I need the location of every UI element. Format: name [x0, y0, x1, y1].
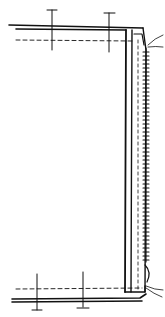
thread-end-icon — [146, 286, 163, 297]
pin-icon — [104, 13, 115, 52]
thread-end-icon — [148, 35, 163, 47]
pin-icon — [77, 272, 89, 308]
top-fabric-layers — [9, 25, 143, 41]
pin-icon — [32, 274, 42, 310]
zipper-teeth — [143, 48, 149, 262]
sewing-diagram — [0, 0, 165, 317]
